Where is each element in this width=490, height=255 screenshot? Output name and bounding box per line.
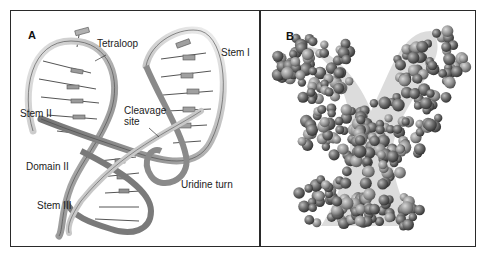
- label-uridine-turn: Uridine turn: [181, 180, 233, 191]
- label-stem-i: Stem I: [221, 48, 250, 59]
- label-cleavage-site-line2: site: [124, 117, 140, 128]
- label-tetraloop: Tetraloop: [97, 39, 138, 50]
- panel-a-ribbon-diagram: A Tetraloop Stem I Stem II Cleavage site…: [11, 11, 259, 246]
- atom-spheres: [272, 25, 471, 230]
- panel-b-space-filling-model: B: [261, 11, 475, 246]
- panel-label-a: A: [28, 29, 36, 41]
- label-stem-ii: Stem II: [20, 109, 52, 120]
- space-filling-graphic: [261, 11, 475, 246]
- label-cleavage-site-line1: Cleavage: [124, 106, 166, 117]
- panel-label-b: B: [286, 30, 294, 42]
- label-domain-ii: Domain II: [26, 162, 69, 173]
- label-stem-iii: Stem III: [37, 201, 71, 212]
